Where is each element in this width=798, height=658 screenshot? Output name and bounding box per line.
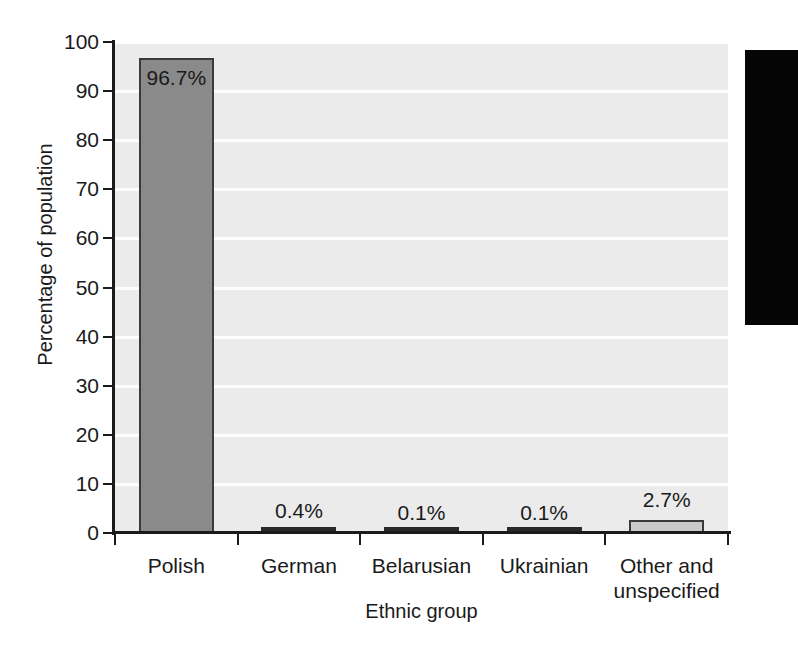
x-axis-tick [237, 533, 239, 545]
x-axis-tick [604, 533, 606, 545]
x-axis-category-label: Polish [105, 553, 248, 578]
y-axis-tick-label: 10 [53, 473, 99, 494]
x-axis-category-label: German [228, 553, 371, 578]
y-axis-tick-label: 20 [53, 424, 99, 445]
y-axis-tick-label: 50 [53, 277, 99, 298]
y-axis-tick [103, 385, 113, 387]
bar-value-label: 96.7% [115, 67, 238, 89]
y-axis-tick [103, 139, 113, 141]
y-axis-tick [103, 532, 113, 534]
y-axis-tick-label: 0 [53, 522, 99, 543]
y-axis-tick-label: 90 [53, 80, 99, 101]
y-axis-tick-label: 40 [53, 326, 99, 347]
x-axis-tick [727, 533, 729, 545]
y-axis-tick-label-wrap: 100 [45, 31, 99, 52]
y-axis-title: Percentage of population [34, 105, 57, 405]
x-axis-tick [359, 533, 361, 545]
bar-value-label: 2.7% [605, 489, 728, 511]
y-axis-tick-label: 70 [53, 178, 99, 199]
x-axis-category-label: Ukrainian [473, 553, 616, 578]
category-label-line: Other and [595, 553, 738, 578]
y-axis-tick-label-wrap: 90 [45, 80, 99, 101]
y-axis-tick [103, 188, 113, 190]
bar-value-label: 0.1% [483, 502, 606, 524]
category-label-line: German [228, 553, 371, 578]
y-axis-tick-label-wrap: 10 [45, 473, 99, 494]
y-axis-tick-label: 60 [53, 227, 99, 248]
x-axis-tick [114, 533, 116, 545]
y-axis-tick [103, 483, 113, 485]
category-label-line: Belarusian [350, 553, 493, 578]
bar-value-label: 0.1% [360, 502, 483, 524]
scan-edge-artifact [745, 50, 798, 325]
y-axis-tick [103, 336, 113, 338]
y-axis-tick [103, 287, 113, 289]
bar-value-label: 0.4% [238, 500, 361, 522]
x-axis-title: Ethnic group [115, 600, 728, 623]
y-axis-tick-label: 30 [53, 375, 99, 396]
gridline [115, 42, 728, 44]
category-label-line: Ukrainian [473, 553, 616, 578]
y-axis-tick [103, 90, 113, 92]
y-axis-tick [103, 41, 113, 43]
bar-chart-figure: 0102030405060708090100 96.7%0.4%0.1%0.1%… [0, 0, 798, 658]
x-axis-line [112, 531, 731, 534]
category-label-line: Polish [105, 553, 248, 578]
y-axis-tick-label-wrap: 0 [45, 522, 99, 543]
y-axis-tick-label: 100 [53, 31, 99, 52]
x-axis-category-label: Belarusian [350, 553, 493, 578]
y-axis-tick [103, 237, 113, 239]
y-axis-tick-label: 80 [53, 129, 99, 150]
y-axis-tick [103, 434, 113, 436]
y-axis-tick-label-wrap: 20 [45, 424, 99, 445]
bar [139, 58, 214, 533]
x-axis-tick [482, 533, 484, 545]
x-axis-category-label: Other andunspecified [595, 553, 738, 603]
plot-area [115, 42, 728, 533]
